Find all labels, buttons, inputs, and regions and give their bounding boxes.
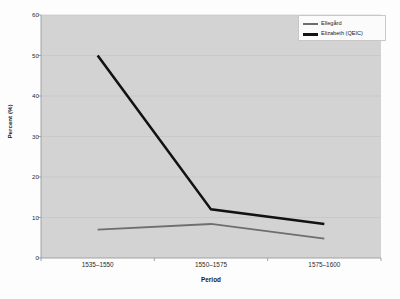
x-axis-tick-labels: 1535–15501550–15751575–1600: [41, 262, 381, 274]
y-tick-label: 20: [13, 174, 39, 180]
x-tick-label: 1535–1550: [58, 262, 138, 268]
gridlines: [41, 15, 381, 218]
series-lines: [98, 56, 325, 239]
legend-label-elizabeth: Elizabeth (QEIC): [321, 31, 363, 37]
y-tick-label: 60: [13, 12, 39, 18]
legend-item-ellegard: Ellegård: [303, 19, 381, 29]
chart-canvas: [0, 0, 400, 299]
legend-label-ellegard: Ellegård: [321, 21, 342, 27]
y-tick-label: 10: [13, 215, 39, 221]
x-tick-label: 1575–1600: [284, 262, 364, 268]
y-tick-label: 0: [13, 255, 39, 261]
y-axis-title: Percent (%): [6, 87, 13, 157]
legend: Ellegård Elizabeth (QEIC): [298, 15, 386, 41]
line-chart: 0102030405060 Percent (%) 1535–15501550–…: [0, 0, 400, 299]
legend-item-elizabeth: Elizabeth (QEIC): [303, 29, 381, 39]
legend-swatch-ellegard: [303, 23, 318, 25]
y-axis-tick-labels: 0102030405060: [8, 15, 39, 258]
y-tick-label: 50: [13, 53, 39, 59]
x-axis-title: Period: [41, 276, 381, 283]
y-tick-label: 30: [13, 134, 39, 140]
y-tick-label: 40: [13, 93, 39, 99]
legend-swatch-elizabeth: [303, 33, 318, 36]
x-tick-label: 1550–1575: [171, 262, 251, 268]
